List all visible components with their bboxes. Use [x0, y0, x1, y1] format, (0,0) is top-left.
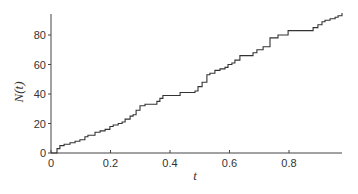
x-tick-label: 0.8 — [281, 157, 296, 169]
x-tick-label: 0.6 — [222, 157, 237, 169]
x-tick-label: 0.4 — [162, 157, 177, 169]
y-tick-label: 80 — [34, 29, 46, 41]
y-ticks: 020406080 — [34, 29, 51, 159]
x-tick-label: 0.2 — [103, 157, 118, 169]
y-tick-label: 20 — [34, 118, 46, 130]
x-tick-label: 0 — [48, 157, 54, 169]
y-tick-label: 0 — [40, 147, 46, 159]
y-axis-label: N(t) — [11, 82, 26, 104]
y-tick-label: 60 — [34, 59, 46, 71]
x-axis-label: t — [193, 168, 197, 183]
y-tick-label: 40 — [34, 88, 46, 100]
series-line-n-of-t — [51, 13, 342, 153]
chart: 00.20.40.60.8 020406080 t N(t) — [0, 0, 358, 194]
